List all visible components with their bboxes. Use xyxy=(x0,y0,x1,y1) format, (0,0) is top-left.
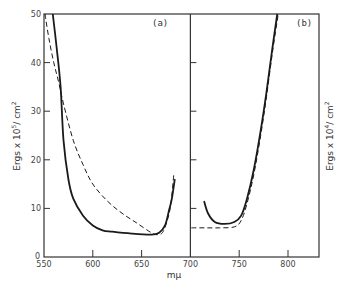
plot-border xyxy=(44,14,319,257)
y-tick-label: 30 xyxy=(31,107,41,116)
chart-figure: 01020304050550600650700750800 (a) (b) mμ… xyxy=(0,0,342,285)
svg-text:Ergs x 105/ cm2: Ergs x 105/ cm2 xyxy=(10,101,22,171)
x-axis-title: mμ xyxy=(167,270,182,280)
plot-frame xyxy=(44,14,319,257)
panel-b-label: (b) xyxy=(296,18,312,28)
y-tick-label: 10 xyxy=(31,204,41,213)
left-y-axis-title: Ergs x 105/ cm2 xyxy=(10,101,22,171)
x-tick-label: 700 xyxy=(183,260,198,269)
x-tick-label: 800 xyxy=(280,260,295,269)
curve-a-solid xyxy=(53,14,175,235)
y-tick-label: 20 xyxy=(31,156,41,165)
data-curves xyxy=(45,14,278,235)
curve-b-dashed xyxy=(191,14,278,228)
x-tick-label: 550 xyxy=(36,260,51,269)
svg-text:Ergs x 104/ cm2: Ergs x 104/ cm2 xyxy=(323,101,335,171)
y-tick-label: 50 xyxy=(31,10,41,19)
curve-b-solid xyxy=(204,14,277,224)
x-tick-label: 600 xyxy=(85,260,100,269)
y-tick-label: 40 xyxy=(31,59,41,68)
x-tick-label: 650 xyxy=(134,260,149,269)
right-y-axis-title: Ergs x 104/ cm2 xyxy=(323,101,335,171)
x-tick-label: 750 xyxy=(232,260,247,269)
curve-a-dashed xyxy=(45,14,174,235)
axis-ticks: 01020304050550600650700750800 xyxy=(31,10,296,269)
panel-a-label: (a) xyxy=(152,18,168,28)
